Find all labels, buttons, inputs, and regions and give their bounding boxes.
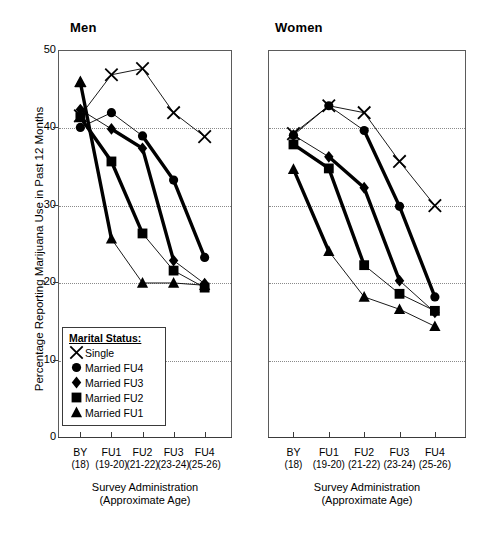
y-tick-label-10: 10: [30, 353, 56, 365]
legend-item-single[interactable]: Single: [69, 345, 159, 360]
legend: Marital Status: SingleMarried FU4Married…: [62, 327, 166, 426]
y-axis-spine: [58, 50, 59, 437]
x-axis-caption-men: Survey Administration(Approximate Age): [50, 481, 240, 507]
x-axis-line-women: [268, 437, 466, 438]
x-tick-name: BY: [73, 446, 87, 458]
legend-item-label: Single: [85, 347, 114, 359]
panel-title-women: Women: [275, 20, 323, 35]
x-tick-name: BY: [286, 446, 300, 458]
x-tick-name: FU1: [319, 446, 339, 458]
x-axis-caption-line1: Survey Administration: [50, 481, 240, 494]
plot-area-women: [268, 50, 466, 437]
legend-item-married-fu2[interactable]: Married FU2: [69, 390, 159, 405]
legend-item-label: Married FU2: [85, 392, 143, 404]
legend-item-married-fu4[interactable]: Married FU4: [69, 360, 159, 375]
x-tick-fu2: [143, 432, 144, 438]
panel-title-men: Men: [70, 20, 97, 35]
x-marker-icon: [69, 345, 84, 360]
x-tick-fu2: [364, 432, 365, 438]
circle-marker-icon: [72, 363, 81, 372]
gridline-40: [59, 128, 231, 129]
legend-item-label: Married FU3: [85, 377, 143, 389]
x-tick-fu1: [111, 432, 112, 438]
figure-root: Percentage Reporting Marijuana Use in Pa…: [0, 0, 482, 535]
x-axis-caption-women: Survey Administration(Approximate Age): [260, 481, 474, 507]
gridline-20: [59, 283, 231, 284]
x-tick-fu3: [400, 432, 401, 438]
x-tick-fu3: [174, 432, 175, 438]
x-tick-fu4: [205, 432, 206, 438]
legend-item-label: Married FU1: [85, 407, 143, 419]
x-tick-label-fu4: FU4(25-26): [182, 446, 228, 471]
x-tick-name: FU4: [425, 446, 445, 458]
y-tick-label-0: 0: [30, 430, 56, 442]
x-axis-line-men: [58, 437, 232, 438]
x-axis-caption-line1: Survey Administration: [260, 481, 474, 494]
x-axis-caption-line2: (Approximate Age): [260, 494, 474, 507]
gridline-40: [269, 128, 465, 129]
x-tick-by: [293, 432, 294, 438]
x-tick-name: FU3: [390, 446, 410, 458]
square-marker-icon: [69, 390, 84, 405]
x-tick-age: (25-26): [412, 459, 458, 472]
gridline-30: [59, 206, 231, 207]
legend-item-married-fu3[interactable]: Married FU3: [69, 375, 159, 390]
legend-item-married-fu1[interactable]: Married FU1: [69, 405, 159, 420]
triangle-marker-icon: [71, 407, 82, 418]
y-tick-label-40: 40: [30, 120, 56, 132]
x-tick-name: FU1: [102, 446, 122, 458]
gridline-20: [269, 283, 465, 284]
square-marker-icon: [72, 393, 82, 403]
gridline-30: [269, 206, 465, 207]
y-tick-label-50: 50: [30, 43, 56, 55]
x-tick-age: (25-26): [182, 459, 228, 472]
y-tick-label-20: 20: [30, 275, 56, 287]
legend-title: Marital Status:: [69, 332, 159, 344]
circle-marker-icon: [69, 360, 84, 375]
x-axis-caption-line2: (Approximate Age): [50, 494, 240, 507]
diamond-marker-icon: [72, 377, 81, 389]
gridline-10: [269, 361, 465, 362]
x-tick-name: FU2: [133, 446, 153, 458]
x-tick-name: FU3: [164, 446, 184, 458]
diamond-marker-icon: [69, 375, 84, 390]
x-marker-icon: [70, 346, 82, 358]
x-tick-fu1: [329, 432, 330, 438]
x-tick-name: FU2: [354, 446, 374, 458]
triangle-marker-icon: [69, 405, 84, 420]
x-tick-label-fu4: FU4(25-26): [412, 446, 458, 471]
legend-item-label: Married FU4: [85, 362, 143, 374]
x-tick-fu4: [435, 432, 436, 438]
x-tick-name: FU4: [195, 446, 215, 458]
x-tick-by: [80, 432, 81, 438]
y-tick-label-30: 30: [30, 198, 56, 210]
